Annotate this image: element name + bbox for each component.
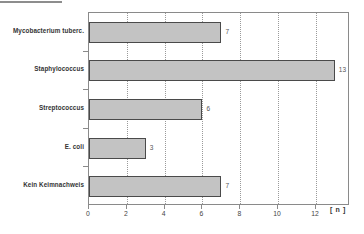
category-label: E. coli xyxy=(2,144,84,150)
bar-value-label: 6 xyxy=(206,106,210,113)
category-label: Streptococcus xyxy=(2,105,84,111)
x-axis-tick-label: 0 xyxy=(86,211,90,218)
x-axis-tick-label: 4 xyxy=(162,211,166,218)
bar-value-label: 7 xyxy=(225,29,229,36)
x-axis-tick-label: 2 xyxy=(124,211,128,218)
x-axis-tick xyxy=(164,205,165,209)
plot-area: 713637 xyxy=(89,13,348,204)
chart-screenshot: Mycobacterium tuberc.StaphylococcusStrep… xyxy=(0,0,364,234)
bar-value-label: 13 xyxy=(339,67,346,74)
bar xyxy=(89,176,221,197)
category-label: Staphylococcus xyxy=(2,66,84,72)
plot-frame: 713637 xyxy=(88,12,349,205)
bar-value-label: 7 xyxy=(225,183,229,190)
category-label: Mycobacterium tuberc. xyxy=(2,28,84,34)
x-axis-tick xyxy=(315,205,316,209)
x-axis-tick xyxy=(201,205,202,209)
gridline-8 xyxy=(240,13,242,204)
y-axis-tick xyxy=(83,51,88,52)
x-axis-tick-label: 8 xyxy=(237,211,241,218)
x-axis-tick xyxy=(277,205,278,209)
bar xyxy=(89,99,202,120)
x-axis-tick xyxy=(239,205,240,209)
x-axis-tick xyxy=(88,205,89,209)
x-axis-tick-label: 6 xyxy=(200,211,204,218)
x-axis-unit-label: [ n ] xyxy=(330,206,346,213)
y-axis-tick xyxy=(83,128,88,129)
y-axis-tick xyxy=(83,166,88,167)
category-label: Kein Keimnachweis xyxy=(2,182,84,188)
gridline-10 xyxy=(278,13,280,204)
bar-value-label: 3 xyxy=(150,145,154,152)
x-axis-tick xyxy=(126,205,127,209)
bar xyxy=(89,22,221,43)
category-axis-labels: Mycobacterium tuberc.StaphylococcusStrep… xyxy=(0,0,84,234)
x-axis-tick-label: 12 xyxy=(311,211,319,218)
bar xyxy=(89,60,335,81)
gridline-12 xyxy=(316,13,318,204)
x-axis-tick-label: 10 xyxy=(273,211,281,218)
y-axis-tick xyxy=(83,89,88,90)
bar xyxy=(89,138,146,159)
